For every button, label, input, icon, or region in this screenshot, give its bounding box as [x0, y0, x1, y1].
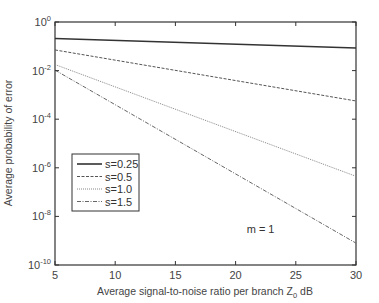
- y-tick-label: 10-2: [32, 63, 51, 77]
- y-tick-label: 10-8: [32, 208, 51, 222]
- y-tick-label: 10-6: [32, 160, 51, 174]
- x-tick-label: 20: [229, 269, 241, 281]
- series-line-s-0-25: [55, 39, 356, 48]
- y-axis-label: Average probability of error: [2, 79, 14, 206]
- chart: 5101520253010010-210-410-610-810-10 s=0.…: [0, 0, 379, 303]
- x-tick-label: 10: [109, 269, 121, 281]
- legend-label: s=0.25: [105, 158, 138, 170]
- x-axis-label: Average signal-to-noise ratio per branch…: [97, 285, 313, 300]
- y-tick-label: 10-4: [32, 111, 51, 125]
- x-tick-label: 25: [290, 269, 302, 281]
- legend-label: s=1.5: [105, 196, 132, 208]
- y-tick-label: 100: [35, 14, 51, 28]
- plot-area-frame: [55, 22, 356, 265]
- series-line-s-0-5: [55, 50, 356, 101]
- legend-label: s=0.5: [105, 171, 132, 183]
- x-tick-label: 15: [169, 269, 181, 281]
- x-tick-label: 30: [350, 269, 362, 281]
- annotation-m-value: m = 1: [247, 223, 275, 235]
- y-tick-label: 10-10: [28, 257, 51, 271]
- legend-label: s=1.0: [105, 183, 132, 195]
- x-tick-label: 5: [52, 269, 58, 281]
